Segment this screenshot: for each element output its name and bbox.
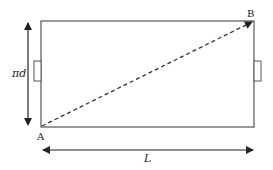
point-a-label: A bbox=[36, 131, 45, 142]
cylinder-unrolled-diagram: πd A B L bbox=[0, 0, 273, 170]
height-label: πd bbox=[11, 67, 26, 80]
diagonal-path-a-to-b bbox=[42, 22, 252, 126]
left-tab bbox=[34, 61, 41, 81]
length-label: L bbox=[143, 152, 151, 165]
right-tab bbox=[254, 61, 261, 81]
point-b-label: B bbox=[247, 8, 254, 19]
unrolled-surface-rectangle bbox=[41, 21, 254, 127]
